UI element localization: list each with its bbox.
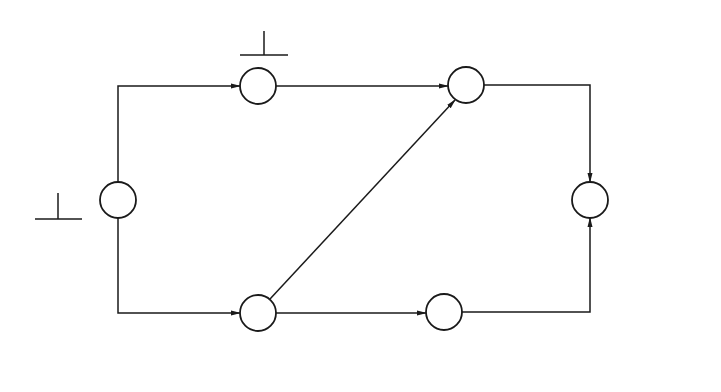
activity-a-arrow (118, 86, 240, 182)
node-6 (572, 182, 608, 218)
node-3 (240, 295, 276, 331)
node-4 (448, 67, 484, 103)
activity-d-arrow (270, 100, 455, 299)
node-1 (100, 182, 136, 218)
activity-g-arrow (462, 218, 590, 312)
activity-f-arrow (484, 85, 590, 182)
node-2 (240, 68, 276, 104)
node-2-times (240, 31, 288, 55)
node-4-times: I've got a loop going: the node-4 time g… (0, 0, 458, 54)
network-diagram: I've got a loop going: the node-4 time g… (0, 0, 721, 392)
node-5 (426, 294, 462, 330)
node-1-times (35, 193, 82, 219)
activity-b-arrow (118, 218, 240, 313)
